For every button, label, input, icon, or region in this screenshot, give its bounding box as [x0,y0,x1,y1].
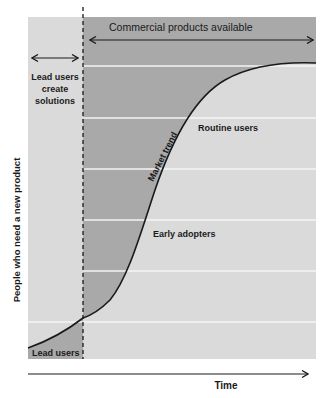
diagram: Commercial products available Lead users… [0,0,324,398]
lead-users-create-label-line2: create [42,84,69,94]
early-adopters-label: Early adopters [153,229,216,239]
lead-users-create-label-line1: Lead users [31,72,79,82]
lead-users-label: Lead users [32,348,80,358]
lead-users-create-label-line3: solutions [35,96,75,106]
x-axis-label: Time [214,380,238,391]
y-axis-label: People who need a new product [11,157,22,302]
routine-users-label: Routine users [198,123,258,133]
commercial-products-label: Commercial products available [109,21,253,33]
